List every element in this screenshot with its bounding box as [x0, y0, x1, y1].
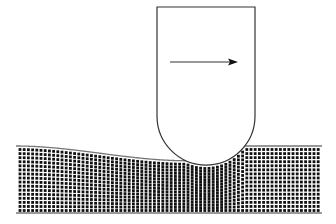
particle-dot [254, 197, 257, 200]
particle-dot [292, 201, 295, 204]
particle-dot [149, 180, 152, 183]
particle-dot [157, 203, 160, 206]
particle-dot [115, 171, 118, 174]
particle-dot [212, 172, 215, 175]
particle-dot [287, 189, 290, 192]
particle-dot [31, 148, 34, 151]
particle-dot [313, 152, 316, 155]
particle-dot [69, 152, 72, 155]
particle-dot [262, 205, 265, 208]
particle-dot [283, 201, 286, 204]
particle-dot [296, 189, 299, 192]
particle-dot [145, 170, 148, 173]
particle-dot [203, 201, 206, 204]
particle-dot [258, 156, 261, 159]
particle-dot [212, 192, 215, 195]
particle-dot [208, 189, 211, 192]
particle-dot [77, 156, 80, 159]
particle-dot [304, 205, 307, 208]
particle-dot [23, 169, 26, 172]
particle-dot [233, 192, 236, 195]
particle-dot [191, 194, 194, 197]
particle-dot [224, 178, 227, 181]
particle-dot [296, 173, 299, 176]
particle-dot [220, 185, 223, 188]
particle-dot [94, 205, 97, 208]
particle-dot [287, 185, 290, 188]
particle-dot [94, 155, 97, 158]
particle-dot [262, 193, 265, 196]
particle-dot [216, 177, 219, 180]
particle-dot [300, 205, 303, 208]
particle-dot [69, 198, 72, 201]
particle-dot [103, 188, 106, 191]
particle-dot [119, 178, 122, 181]
particle-dot [124, 179, 127, 182]
particle-dot [245, 181, 248, 184]
particle-dot [287, 193, 290, 196]
particle-dot [52, 166, 55, 169]
particle-dot [245, 148, 248, 151]
particle-dot [195, 206, 198, 209]
particle-dot [40, 197, 43, 200]
particle-dot [317, 173, 320, 176]
particle-dot [300, 160, 303, 163]
particle-dot [107, 209, 110, 212]
particle-dot [23, 181, 26, 184]
particle-dot [216, 203, 219, 206]
particle-dot [195, 180, 198, 183]
particle-dot [124, 196, 127, 199]
particle-dot [65, 178, 68, 181]
particle-dot [254, 205, 257, 208]
particle-dot [208, 178, 211, 181]
particle-dot [19, 173, 22, 176]
particle-dot [31, 181, 34, 184]
particle-dot [40, 169, 43, 172]
particle-dot [161, 178, 164, 181]
particle-dot [157, 162, 160, 165]
particle-dot [174, 169, 177, 172]
particle-dot [52, 185, 55, 188]
particle-dot [287, 201, 290, 204]
particle-dot [40, 165, 43, 168]
particle-dot [220, 194, 223, 197]
particle-dot [132, 186, 135, 189]
particle-dot [103, 206, 106, 209]
particle-dot [27, 185, 30, 188]
particle-dot [94, 209, 97, 212]
particle-dot [132, 196, 135, 199]
particle-dot [161, 181, 164, 184]
particle-dot [52, 189, 55, 192]
particle-dot [23, 197, 26, 200]
particle-dot [69, 205, 72, 208]
particle-dot [23, 156, 26, 159]
particle-dot [140, 209, 143, 212]
particle-dot [182, 163, 185, 166]
particle-dot [40, 173, 43, 176]
particle-dot [308, 160, 311, 163]
particle-dot [19, 177, 22, 180]
particle-dot [245, 209, 248, 212]
particle-dot [19, 181, 22, 184]
particle-dot [48, 158, 51, 161]
particle-dot [48, 197, 51, 200]
particle-dot [161, 190, 164, 193]
particle-dot [44, 197, 47, 200]
particle-dot [187, 182, 190, 185]
particle-dot [27, 165, 30, 168]
particle-dot [191, 200, 194, 203]
particle-dot [86, 205, 89, 208]
particle-dot [300, 156, 303, 159]
particle-dot [153, 196, 156, 199]
particle-dot [195, 203, 198, 206]
particle-dot [174, 178, 177, 181]
particle-dot [304, 177, 307, 180]
particle-dot [208, 173, 211, 176]
particle-dot [199, 178, 202, 181]
particle-dot [61, 190, 64, 193]
particle-dot [275, 189, 278, 192]
particle-dot [94, 177, 97, 180]
particle-dot [19, 168, 22, 171]
particle-dot [170, 203, 173, 206]
particle-dot [224, 203, 227, 206]
